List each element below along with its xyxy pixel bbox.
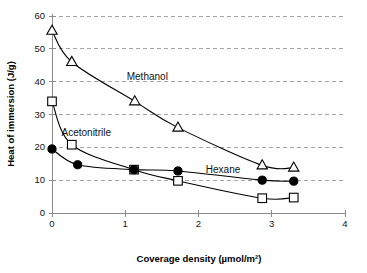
marker-hexane-4 — [258, 176, 266, 184]
x-tick-label-2: 2 — [196, 218, 201, 229]
marker-hexane-1 — [74, 161, 82, 169]
curve-acetonitrile — [52, 101, 294, 199]
marker-acetonitrile-4 — [258, 194, 267, 203]
x-axis-title: Coverage density (µmol/m²) — [137, 253, 262, 264]
x-tick-labels-group: 01234 — [49, 218, 347, 229]
y-tick-labels-group: 0102030405060 — [34, 10, 45, 218]
marker-methanol-0 — [47, 25, 57, 34]
y-tick-label-30: 30 — [34, 109, 45, 120]
y-axis-title: Heat of immersion (J/g) — [5, 61, 16, 167]
y-tick-label-60: 60 — [34, 10, 45, 21]
marker-acetonitrile-0 — [48, 97, 57, 106]
marker-methanol-3 — [173, 122, 183, 131]
x-tick-label-4: 4 — [342, 218, 347, 229]
series-labels-group: MethanolAcetonitrileHexane — [62, 71, 241, 175]
heat-of-immersion-chart: 0102030405060 01234 MethanolAcetonitrile… — [0, 0, 367, 273]
marker-acetonitrile-3 — [174, 177, 183, 186]
series-label-hexane: Hexane — [206, 164, 241, 175]
x-tick-label-3: 3 — [269, 218, 274, 229]
marker-acetonitrile-1 — [67, 140, 76, 149]
tick-marks-group — [49, 16, 346, 217]
axes-group — [52, 14, 345, 213]
y-tick-label-0: 0 — [40, 207, 45, 218]
marker-hexane-3 — [174, 167, 182, 175]
marker-acetonitrile-5 — [289, 193, 298, 202]
y-tick-label-10: 10 — [34, 174, 45, 185]
marker-hexane-2 — [130, 166, 138, 174]
y-tick-label-40: 40 — [34, 76, 45, 87]
data-curves-group — [52, 31, 294, 200]
marker-hexane-5 — [290, 177, 298, 185]
data-markers-group — [47, 25, 299, 202]
gridlines-group — [52, 16, 345, 180]
x-tick-label-1: 1 — [123, 218, 128, 229]
series-label-acetonitrile: Acetonitrile — [62, 127, 112, 138]
y-tick-label-20: 20 — [34, 141, 45, 152]
marker-hexane-0 — [48, 145, 56, 153]
x-tick-label-0: 0 — [49, 218, 54, 229]
series-label-methanol: Methanol — [127, 71, 168, 82]
marker-methanol-5 — [289, 162, 299, 171]
curve-methanol — [52, 31, 294, 169]
y-tick-label-50: 50 — [34, 43, 45, 54]
chart-figure: 0102030405060 01234 MethanolAcetonitrile… — [0, 0, 367, 273]
marker-methanol-2 — [130, 96, 140, 105]
